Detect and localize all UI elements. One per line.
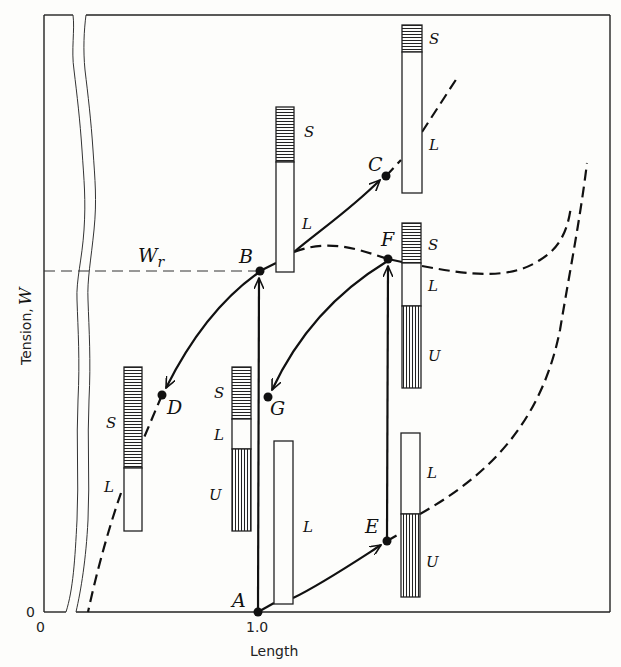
- point-label-b: B: [238, 245, 253, 267]
- point-e: [383, 537, 392, 546]
- bar-f-l-label: L: [427, 277, 438, 295]
- bar-c-l-label: L: [428, 136, 439, 154]
- dashed-curves: [88, 75, 587, 612]
- y-axis-variable: W: [15, 286, 35, 305]
- path-e-f: [387, 266, 388, 539]
- bar-d-l-label: L: [103, 478, 114, 496]
- bar-b: [276, 107, 294, 272]
- point-label-f: F: [380, 228, 395, 250]
- bar-g-u-label: U: [209, 486, 223, 504]
- bar-c-s-label: S: [429, 30, 439, 48]
- curve-c-upper: [422, 75, 459, 132]
- bar-e-u-label: U: [426, 553, 440, 571]
- bar-e: [401, 433, 420, 597]
- x-axis-label: Length: [250, 643, 298, 659]
- point-b: [256, 267, 265, 276]
- curve-e-right: [420, 163, 587, 514]
- bar-f: [402, 223, 421, 388]
- bar-g-l-label: L: [213, 426, 224, 444]
- curve-d-bottom: [88, 493, 121, 612]
- point-label-a: A: [230, 589, 246, 611]
- bar-g: [232, 367, 251, 531]
- curve-d-lower: [143, 395, 162, 440]
- path-a-e: [293, 545, 381, 598]
- bar-c: [402, 25, 422, 193]
- bar-e-l-label: L: [426, 464, 437, 482]
- bar-b-l-label: L: [301, 215, 312, 233]
- point-f: [384, 255, 393, 264]
- y-tick-0: 0: [26, 604, 35, 620]
- bar-d-s-label: S: [106, 414, 116, 432]
- point-label-e: E: [364, 515, 379, 537]
- wr-label: Wr: [138, 244, 166, 270]
- bar-a-l-label: L: [302, 518, 313, 536]
- x-tick-0: 0: [36, 619, 45, 635]
- point-c: [382, 172, 391, 181]
- point-a: [254, 608, 263, 617]
- bar-f-u-label: U: [428, 347, 442, 365]
- point-label-c: C: [368, 153, 383, 175]
- bar-d: [124, 367, 142, 531]
- bar-g-s-label: S: [214, 384, 224, 402]
- bar-labels: S L S L S L U L U S L S L U L: [103, 30, 442, 571]
- axis-break-icon: [66, 15, 96, 612]
- bar-f-s-label: S: [428, 236, 438, 254]
- curve-f-right: [422, 206, 571, 274]
- point-label-g: G: [270, 397, 285, 419]
- x-tick-1: 1.0: [246, 619, 268, 635]
- point-d: [158, 391, 167, 400]
- y-axis-label: Tension,: [18, 308, 34, 366]
- path-a-b: [258, 278, 259, 610]
- path-f-g: [272, 262, 386, 390]
- tension-length-diagram: 0 0 1.0 Length Tension, W Wr: [0, 0, 621, 667]
- bar-a: [274, 441, 293, 604]
- curve-bf: [294, 246, 388, 259]
- point-label-d: D: [166, 396, 182, 418]
- bar-b-s-label: S: [304, 123, 314, 141]
